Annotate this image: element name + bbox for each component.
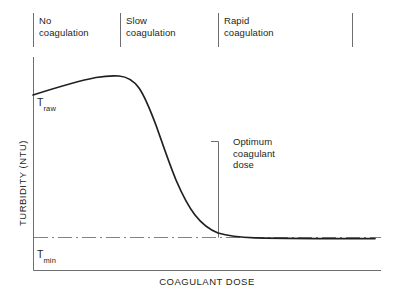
optimum-coagulant-dose-annotation: Optimum coagulant dose — [233, 136, 275, 171]
t-raw-subscript: raw — [43, 104, 56, 113]
zone-label-no-coagulation: No coagulation — [39, 15, 89, 38]
chart-plot-area — [0, 0, 403, 297]
turbidity-curve — [33, 76, 375, 239]
zone-label-rapid-coagulation: Rapid coagulation — [224, 15, 274, 38]
optimum-dose-leader-line — [211, 142, 219, 238]
turbidity-coagulant-dose-chart: No coagulation Slow coagulation Rapid co… — [0, 0, 403, 297]
t-min-label: Tmin — [37, 248, 56, 263]
t-raw-label: Traw — [37, 96, 56, 111]
zone-label-slow-coagulation: Slow coagulation — [126, 15, 176, 38]
y-axis-title: TURBIDITY (NTU) — [17, 140, 28, 226]
t-min-subscript: min — [43, 256, 56, 265]
x-axis-title: COAGULANT DOSE — [33, 276, 381, 287]
